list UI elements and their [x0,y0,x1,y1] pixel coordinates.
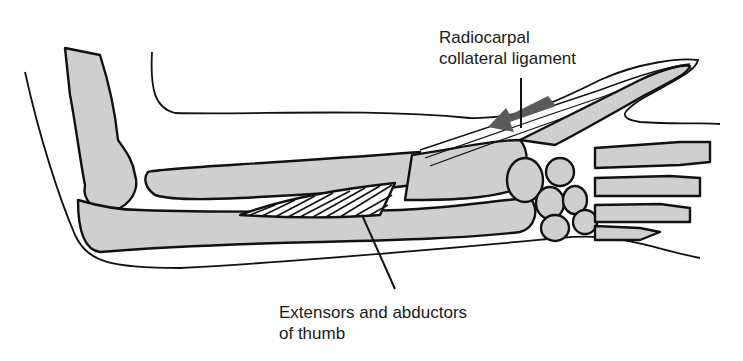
extensors-label: Extensors and abductors of thumb [279,302,467,344]
ligament-label: Radiocarpal collateral ligament [439,27,576,69]
ligament-label-line1: Radiocarpal [439,27,576,48]
ligament-label-line2: collateral ligament [439,48,576,69]
extensors-label-line1: Extensors and abductors [279,302,467,323]
extensors-label-line2: of thumb [279,323,467,344]
metacarpals-and-phalanges [595,142,710,240]
humerus-bone [65,48,136,211]
